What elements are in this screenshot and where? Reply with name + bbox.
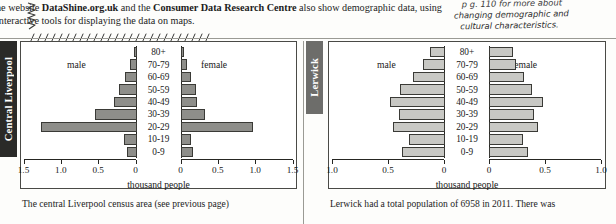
male-bar bbox=[423, 59, 445, 69]
axis-tick-label: 0 bbox=[442, 165, 447, 175]
margin-note-line-3: cultural characteristics. bbox=[446, 18, 614, 32]
margin-note-zigzag-icon bbox=[27, 1, 37, 31]
axis-tick-label: 1.5 bbox=[287, 165, 298, 175]
male-bar bbox=[130, 59, 137, 69]
female-bar bbox=[489, 147, 528, 157]
male-bar bbox=[41, 122, 137, 132]
axis-right: thousand people 1.00.5000.51.0 bbox=[337, 159, 597, 185]
axis-tick bbox=[293, 160, 294, 164]
pyramid-rows-right: 80+70-7960-6950-5940-4930-3920-2910-190-… bbox=[337, 46, 597, 158]
male-bar-cell bbox=[337, 83, 445, 95]
chart-lerwick: male female 80+70-7960-6950-5940-4930-39… bbox=[328, 41, 606, 189]
axis-title-left: thousand people bbox=[29, 179, 288, 190]
age-group-label: 80+ bbox=[137, 47, 181, 57]
female-bar-cell bbox=[489, 121, 597, 133]
age-group-label: 80+ bbox=[445, 47, 489, 57]
female-bar bbox=[181, 47, 185, 57]
female-bar bbox=[489, 84, 532, 94]
axis-scale-male: 1.51.00.50 bbox=[24, 159, 136, 166]
female-bar bbox=[489, 59, 516, 69]
pyramid-row: 10-19 bbox=[29, 133, 288, 145]
side-tab-lerwick: Lerwick bbox=[306, 41, 323, 114]
female-bar-cell bbox=[489, 83, 597, 95]
age-group-label: 70-79 bbox=[137, 60, 181, 70]
male-bar bbox=[430, 47, 445, 57]
age-group-label: 20-29 bbox=[445, 122, 489, 132]
female-bar-cell bbox=[181, 133, 289, 145]
male-bar-cell bbox=[29, 46, 137, 58]
axis-tick-label: 0.5 bbox=[539, 165, 550, 175]
male-bar bbox=[114, 97, 136, 107]
pyramid-row: 70-79 bbox=[29, 58, 288, 70]
axis-tick-label: 1.0 bbox=[55, 165, 66, 175]
panel-lerwick: Lerwick male female 80+70-7960-6950-5940… bbox=[306, 41, 616, 224]
side-tab-label: Central Liverpool bbox=[0, 57, 17, 141]
panel-divider bbox=[303, 41, 304, 224]
axis-tick-label: 1.0 bbox=[249, 165, 260, 175]
axis-title-right: thousand people bbox=[337, 179, 597, 190]
chart-central-liverpool: male female 80+70-7960-6950-5940-4930-39… bbox=[20, 41, 297, 189]
margin-note: p g. 110 for more about changing demogra… bbox=[446, 0, 615, 33]
male-bar-cell bbox=[29, 108, 137, 120]
age-group-label: 10-19 bbox=[137, 134, 181, 144]
body-paragraph: he website DataShine.org.uk and the Cons… bbox=[0, 1, 448, 27]
male-bar bbox=[390, 97, 445, 107]
male-bar bbox=[124, 134, 137, 144]
side-tab-central-liverpool: Central Liverpool bbox=[0, 41, 17, 157]
caption-lerwick: Lerwick had a total population of 6958 i… bbox=[330, 198, 614, 210]
axis-tick-label: 0.5 bbox=[212, 165, 223, 175]
axis-tick-label: 1.0 bbox=[595, 165, 606, 175]
male-bar-cell bbox=[29, 146, 137, 158]
female-bar-cell bbox=[489, 146, 597, 158]
side-tab-label: Lerwick bbox=[306, 58, 323, 97]
male-bar bbox=[409, 134, 445, 144]
age-group-label: 30-39 bbox=[445, 109, 489, 119]
axis-tick bbox=[61, 160, 62, 164]
age-group-label: 50-59 bbox=[137, 85, 181, 95]
female-bar bbox=[181, 134, 191, 144]
male-bar-cell bbox=[337, 108, 445, 120]
female-bar-cell bbox=[489, 133, 597, 145]
age-group-label: 60-69 bbox=[445, 72, 489, 82]
header-divider bbox=[0, 38, 616, 39]
female-bar bbox=[489, 47, 513, 57]
pyramid-row: 0-9 bbox=[337, 146, 597, 158]
male-bar-cell bbox=[337, 46, 445, 58]
axis-tick-label: 0.5 bbox=[382, 165, 393, 175]
axis-tick-label: 1.5 bbox=[18, 165, 29, 175]
age-group-label: 40-49 bbox=[445, 97, 489, 107]
pyramid-row: 30-39 bbox=[29, 108, 288, 120]
axis-tick bbox=[98, 160, 99, 164]
age-group-label: 10-19 bbox=[445, 134, 489, 144]
pyramid-row: 70-79 bbox=[337, 58, 597, 70]
pyramid-row: 60-69 bbox=[337, 71, 597, 83]
age-group-label: 20-29 bbox=[137, 122, 181, 132]
female-bar bbox=[489, 97, 543, 107]
female-bar-cell bbox=[181, 46, 289, 58]
age-group-label: 0-9 bbox=[445, 147, 489, 157]
female-bar-cell bbox=[181, 83, 289, 95]
male-bar bbox=[400, 84, 445, 94]
female-bar bbox=[489, 109, 534, 119]
axis-tick-label: 1.0 bbox=[326, 165, 337, 175]
male-bar-cell bbox=[29, 58, 137, 70]
female-bar-cell bbox=[181, 121, 289, 133]
female-bar-cell bbox=[489, 58, 597, 70]
axis-tick bbox=[332, 160, 333, 164]
axis-tick-label: 0.5 bbox=[92, 165, 103, 175]
axis-tick bbox=[489, 160, 490, 164]
male-bar bbox=[393, 122, 445, 132]
pyramid-rows-left: 80+70-7960-6950-5940-4930-3920-2910-190-… bbox=[29, 46, 288, 158]
female-bar-cell bbox=[489, 46, 597, 58]
axis-tick bbox=[444, 160, 445, 164]
female-bar bbox=[489, 134, 523, 144]
age-group-label: 70-79 bbox=[445, 60, 489, 70]
male-bar bbox=[127, 147, 137, 157]
pyramid-row: 30-39 bbox=[337, 108, 597, 120]
female-bar bbox=[181, 122, 253, 132]
axis-scale-female: 00.51.0 bbox=[489, 159, 601, 166]
female-bar bbox=[181, 97, 197, 107]
male-bar-cell bbox=[337, 133, 445, 145]
male-bar bbox=[125, 72, 137, 82]
pyramid-row: 40-49 bbox=[29, 96, 288, 108]
